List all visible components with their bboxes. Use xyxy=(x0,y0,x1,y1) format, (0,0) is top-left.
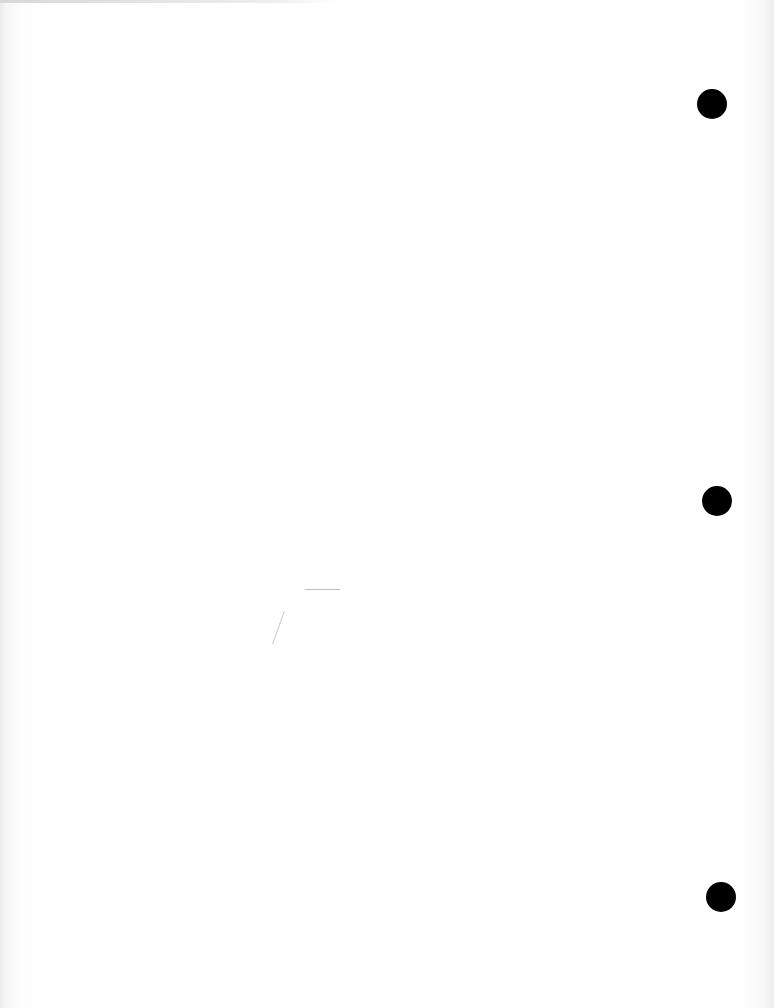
binder-hole-middle xyxy=(702,486,732,516)
scanned-page xyxy=(0,0,774,1008)
binder-hole-bottom xyxy=(706,882,736,912)
stray-mark-slash xyxy=(272,611,285,644)
binder-hole-top xyxy=(697,89,727,119)
scan-edge-artifact xyxy=(0,0,340,3)
stray-mark-horizontal xyxy=(305,589,340,590)
